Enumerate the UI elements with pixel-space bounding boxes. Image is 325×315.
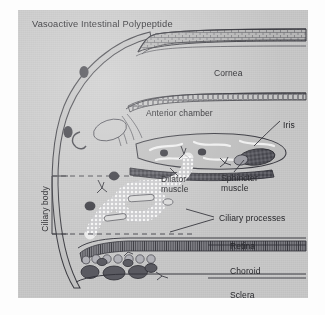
label-iris: Iris [283,120,295,130]
figure-image: Vasoactive Intestinal Polypeptide Cornea… [0,0,325,315]
label-ciliary-processes: Ciliary processes [219,213,285,223]
label-choroid: Choroid [230,266,260,276]
label-cornea: Cornea [214,68,242,78]
ciliary-processes-structure [18,10,308,298]
label-sphincter-muscle: Sphincter muscle [221,174,258,193]
diagram-panel: Vasoactive Intestinal Polypeptide Cornea… [18,10,308,298]
label-ciliary-body: Ciliary body [40,171,50,247]
label-dilator-muscle: Dilator muscle [161,175,189,194]
label-retina: Retina [230,241,255,251]
label-sclera: Sclera [230,290,255,298]
figure-title: Vasoactive Intestinal Polypeptide [32,19,173,29]
label-anterior-chamber: Anterior chamber [146,108,213,118]
eye-diagram-artwork [18,10,308,298]
